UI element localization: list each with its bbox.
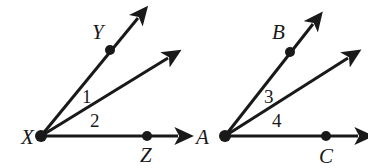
vertex-label-A: A (196, 127, 209, 148)
angle-2: 2 (90, 111, 100, 130)
diagram-canvas: YZX12BCA34 (0, 0, 368, 168)
point-dot-Z (142, 131, 152, 141)
ray-X-middle (41, 58, 168, 136)
angle-1: 1 (82, 87, 92, 106)
angle-3: 3 (264, 87, 274, 106)
point-dot-C (321, 131, 331, 141)
vertex-dot-A (219, 130, 231, 142)
point-dot-B (285, 47, 295, 57)
ray-group (41, 18, 358, 136)
geometry-figure (0, 0, 368, 168)
point-label-B: B (272, 22, 285, 43)
point-dot-Y (105, 45, 115, 55)
point-label-C: C (319, 146, 333, 167)
vertex-label-X: X (21, 127, 34, 148)
point-label-Z: Z (140, 145, 152, 166)
ray-AB (225, 24, 313, 136)
angle-4: 4 (272, 111, 282, 130)
point-label-Y: Y (92, 22, 104, 43)
vertex-dot-X (35, 130, 47, 142)
ray-A-middle (225, 58, 348, 136)
